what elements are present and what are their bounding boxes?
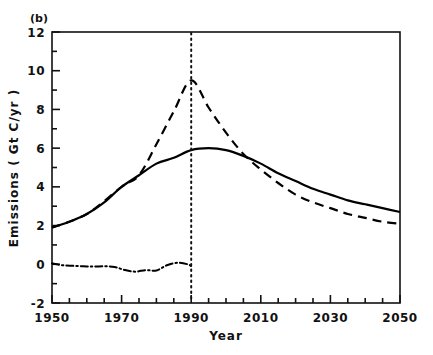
y-tick-label: -2	[31, 297, 45, 311]
panel-label: (b)	[30, 12, 48, 25]
x-axis-title: Year	[208, 329, 243, 343]
y-tick-label: 6	[36, 142, 45, 156]
y-tick-label: 10	[27, 64, 45, 78]
x-tick-label: 1950	[34, 311, 69, 325]
chart-canvas: (b) 121086420-2 195019701990201020302050…	[0, 0, 433, 355]
chart-background	[0, 0, 433, 355]
y-tick-label: 0	[36, 258, 45, 272]
x-tick-label: 2010	[243, 311, 278, 325]
x-tick-label: 1990	[173, 311, 208, 325]
y-tick-label: 8	[36, 103, 45, 117]
emissions-chart: (b) 121086420-2 195019701990201020302050…	[0, 0, 433, 355]
x-tick-label: 2050	[382, 311, 417, 325]
y-tick-label: 4	[36, 180, 45, 194]
x-tick-label: 1970	[104, 311, 139, 325]
y-tick-label: 12	[27, 26, 45, 40]
x-tick-label: 2030	[313, 311, 348, 325]
y-axis-title: Emissions ( Gt C/yr )	[7, 89, 21, 247]
y-tick-label: 2	[36, 219, 45, 233]
